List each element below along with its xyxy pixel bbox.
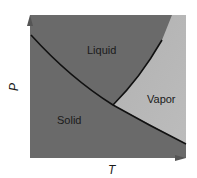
phase-diagram-plot [0,0,197,178]
region-label-solid: Solid [57,114,81,126]
y-axis-label: P [7,83,21,91]
x-axis-label: T [108,163,115,177]
region-label-liquid: Liquid [87,44,116,56]
region-label-vapor: Vapor [147,93,176,105]
